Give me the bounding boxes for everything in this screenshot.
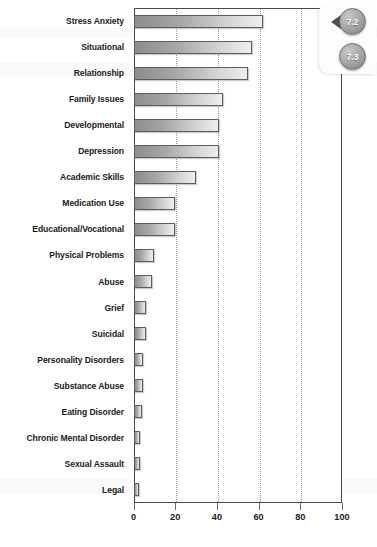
bar-row bbox=[134, 321, 343, 347]
category-label: Situational bbox=[0, 34, 129, 60]
bar-row bbox=[134, 86, 343, 112]
bar[interactable] bbox=[134, 431, 140, 444]
x-axis-tick-label: 40 bbox=[212, 512, 222, 522]
bar[interactable] bbox=[134, 15, 263, 28]
bar[interactable] bbox=[134, 301, 147, 314]
category-label: Suicidal bbox=[0, 321, 129, 347]
bar[interactable] bbox=[134, 483, 139, 496]
bar[interactable] bbox=[134, 197, 176, 210]
bar[interactable] bbox=[134, 353, 143, 366]
bar[interactable] bbox=[134, 145, 219, 158]
bar-row bbox=[134, 425, 343, 451]
x-axis-tick-label: 100 bbox=[334, 512, 349, 522]
category-label: Chronic Mental Disorder bbox=[0, 425, 129, 451]
page-number-badge-group: 7.2 7.3 bbox=[313, 2, 375, 76]
bar-row bbox=[134, 216, 343, 242]
category-label: Educational/Vocational bbox=[0, 216, 129, 242]
bar[interactable] bbox=[134, 119, 219, 132]
category-label: Family Issues bbox=[0, 86, 129, 112]
bar[interactable] bbox=[134, 457, 140, 470]
category-label: Medication Use bbox=[0, 190, 129, 216]
category-axis-labels: Stress AnxietySituationalRelationshipFam… bbox=[0, 8, 129, 503]
bar-row bbox=[134, 477, 343, 503]
bar-row bbox=[134, 190, 343, 216]
bar[interactable] bbox=[134, 41, 253, 54]
category-label: Abuse bbox=[0, 269, 129, 295]
bar-row bbox=[134, 295, 343, 321]
category-label: Sexual Assault bbox=[0, 451, 129, 477]
category-label: Developmental bbox=[0, 112, 129, 138]
bar-row bbox=[134, 451, 343, 477]
x-axis-ticks bbox=[0, 503, 377, 511]
bar[interactable] bbox=[134, 249, 155, 262]
category-label: Depression bbox=[0, 138, 129, 164]
x-axis-tick-label: 80 bbox=[295, 512, 305, 522]
category-label: Physical Problems bbox=[0, 242, 129, 268]
bar[interactable] bbox=[134, 379, 143, 392]
bar[interactable] bbox=[134, 327, 147, 340]
category-label: Eating Disorder bbox=[0, 399, 129, 425]
x-axis-tick-label: 60 bbox=[253, 512, 263, 522]
bar[interactable] bbox=[134, 67, 249, 80]
x-axis-tick bbox=[175, 503, 176, 510]
bar-row bbox=[134, 242, 343, 268]
bar-row bbox=[134, 60, 343, 86]
category-label: Grief bbox=[0, 295, 129, 321]
x-axis-tick bbox=[300, 503, 301, 510]
bar-row bbox=[134, 399, 343, 425]
category-label: Personality Disorders bbox=[0, 347, 129, 373]
bar-row bbox=[134, 8, 343, 34]
category-label: Stress Anxiety bbox=[0, 8, 129, 34]
bar-row bbox=[134, 269, 343, 295]
bar-row bbox=[134, 164, 343, 190]
category-label: Substance Abuse bbox=[0, 373, 129, 399]
x-axis-tick bbox=[134, 503, 135, 510]
x-axis-tick-labels: 020406080100 bbox=[0, 512, 377, 530]
bar[interactable] bbox=[134, 171, 197, 184]
bar[interactable] bbox=[134, 93, 224, 106]
category-label: Legal bbox=[0, 477, 129, 503]
x-axis-tick-label: 20 bbox=[170, 512, 180, 522]
bar-row bbox=[134, 112, 343, 138]
x-axis-tick bbox=[342, 503, 343, 510]
badge-primary[interactable]: 7.2 bbox=[339, 8, 366, 35]
category-label: Relationship bbox=[0, 60, 129, 86]
bar[interactable] bbox=[134, 223, 176, 236]
bar-row bbox=[134, 34, 343, 60]
bar[interactable] bbox=[134, 405, 142, 418]
bar-row bbox=[134, 373, 343, 399]
bar-row bbox=[134, 347, 343, 373]
badge-secondary[interactable]: 7.3 bbox=[339, 43, 366, 70]
bars-layer bbox=[134, 8, 343, 503]
bar[interactable] bbox=[134, 275, 153, 288]
bar-row bbox=[134, 138, 343, 164]
category-label: Academic Skills bbox=[0, 164, 129, 190]
horizontal-bar-chart: Stress AnxietySituationalRelationshipFam… bbox=[0, 0, 377, 547]
x-axis-tick bbox=[259, 503, 260, 510]
x-axis-tick-label: 0 bbox=[131, 512, 136, 522]
x-axis-tick bbox=[217, 503, 218, 510]
